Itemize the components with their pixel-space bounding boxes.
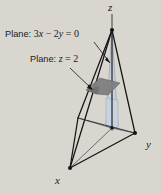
axis-label-y: y [146,139,151,150]
label-plane-3x-2y-0: Plane: 3x − 2y = 0 [5,29,79,39]
origin-base-dot [110,126,113,129]
label-plane-3x-2y-0-prefix: Plane: [5,29,31,39]
label-var-x: x [39,28,43,39]
x-vertex-dot [68,166,72,170]
tetrahedron-wireframe [70,30,135,168]
label-minus-op: − [46,28,52,39]
apex-vertex-dot [110,28,114,32]
label-rhs-2: 2 [73,53,78,64]
label-plane-z-2: Plane: z = 2 [30,54,78,64]
label-equals-op-2: = [65,53,71,64]
y-vertex-dot [133,131,137,135]
base-interior-lines [70,118,135,168]
label-rhs-0: 0 [74,28,79,39]
geometry-figure: Plane: 3x − 2y = 0 Plane: z = 2 z y x [0,0,161,194]
label-plane-z-2-prefix: Plane: [30,54,56,64]
label-equals-op: = [66,28,72,39]
label-var-z: z [59,53,63,64]
axis-label-x: x [55,175,60,186]
axis-label-z: z [108,2,112,13]
label-var-y: y [59,28,63,39]
